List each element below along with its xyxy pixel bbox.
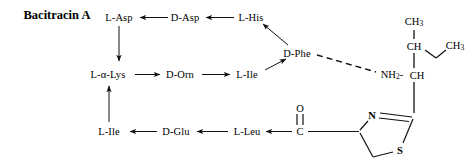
residue-l-ile-lower: L-Ile <box>98 126 120 137</box>
bond-ring-c2-to-s <box>403 119 413 143</box>
atom-ch3-top: CH3 <box>405 16 423 28</box>
bond-ring-c5-to-c4 <box>360 133 373 157</box>
residue-d-orn: D-Orn <box>166 69 194 80</box>
residue-l-alpha-lys: L-α-Lys <box>91 69 126 80</box>
atom-ch3-right: CH3 <box>446 40 464 52</box>
atom-sulfur: S <box>397 145 403 156</box>
residue-d-phe: D-Phe <box>283 48 310 59</box>
arrow-l-ile-to-d-phe <box>265 59 286 70</box>
atom-ch-beta: CH <box>407 41 422 52</box>
bond-ring-n-to-c2-b <box>379 118 409 122</box>
atom-nh2: NH2- <box>381 69 403 81</box>
residue-d-asp: D-Asp <box>171 12 200 23</box>
bond-ch2-to-ch3-right <box>436 50 446 58</box>
dashed-bond-d-phe-to-nh2 <box>317 55 376 72</box>
residue-l-ile-upper: L-Ile <box>236 69 258 80</box>
bacitracin-a-structure-diagram: Bacitracin A L-Asp D-Asp L-His D-Phe L-α… <box>0 0 475 160</box>
atom-ch-alpha: CH <box>410 70 425 81</box>
atom-oxygen: O <box>296 103 304 114</box>
residue-l-asp: L-Asp <box>105 12 132 23</box>
atom-carbonyl-carbon: C <box>296 126 303 137</box>
residue-d-glu: D-Glu <box>162 126 189 137</box>
bond-ring-n-to-c2-a <box>380 113 412 117</box>
bond-ring-s-to-c5 <box>373 152 393 157</box>
arrow-d-phe-to-l-his <box>263 24 288 45</box>
bond-ch-beta-to-ch2 <box>425 50 436 58</box>
bond-ring-c4-to-n <box>360 121 368 130</box>
residue-l-leu: L-Leu <box>234 126 261 137</box>
atom-nitrogen: N <box>368 110 376 121</box>
diagram-title: Bacitracin A <box>23 8 90 23</box>
residue-l-his: L-His <box>239 12 264 23</box>
